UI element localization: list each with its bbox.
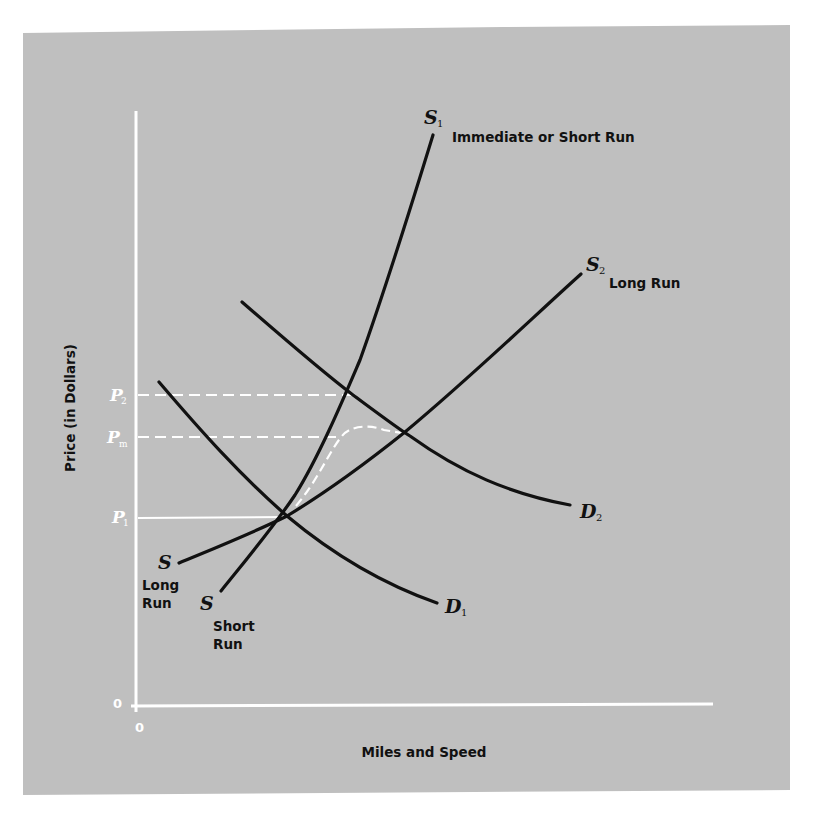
p1-guide-line <box>138 517 285 518</box>
svg-text:D: D <box>444 595 462 617</box>
label-s-short-desc-1: Short <box>213 618 255 634</box>
svg-text:1: 1 <box>437 118 443 129</box>
label-s-long-desc-1: Long <box>142 577 179 593</box>
label-s-short: S <box>200 592 214 614</box>
x-axis <box>131 704 713 706</box>
svg-text:1: 1 <box>461 607 467 618</box>
y-origin-label: 0 <box>113 696 122 711</box>
label-s-short-desc-2: Run <box>213 636 243 652</box>
x-origin-label: 0 <box>135 720 144 735</box>
svg-text:2: 2 <box>599 265 605 276</box>
label-s1-desc: Immediate or Short Run <box>452 129 635 145</box>
y-axis-title: Price (in Dollars) <box>62 344 78 472</box>
label-s-long: S <box>158 551 172 573</box>
svg-text:m: m <box>119 439 128 449</box>
svg-text:D: D <box>579 500 597 522</box>
label-s2-desc: Long Run <box>609 275 680 291</box>
supply-demand-chart: P 2 P m P 1 0 0 Price (in Dollars) Miles… <box>0 0 814 818</box>
x-axis-title: Miles and Speed <box>361 744 486 760</box>
svg-text:2: 2 <box>596 512 602 523</box>
label-s-long-desc-2: Run <box>142 595 172 611</box>
svg-text:S: S <box>586 253 600 275</box>
chart-panel <box>23 25 790 795</box>
svg-text:S: S <box>424 106 438 128</box>
svg-text:1: 1 <box>123 518 129 528</box>
svg-text:2: 2 <box>121 396 127 406</box>
